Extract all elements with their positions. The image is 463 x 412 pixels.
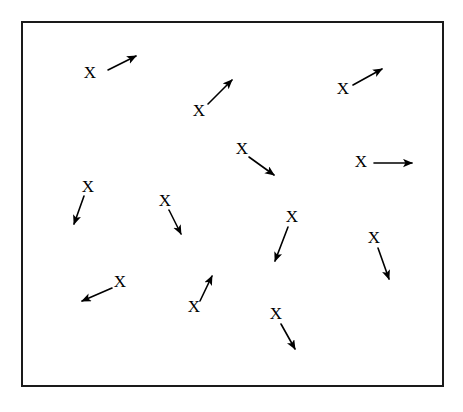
marker-label-x: X <box>236 139 248 158</box>
vector-marker: X <box>337 69 382 98</box>
vector-marker: X <box>275 207 298 261</box>
vector-marker: X <box>368 228 389 279</box>
marker-label-x: X <box>159 191 171 210</box>
vector-arrow <box>200 276 212 301</box>
marker-label-x: X <box>114 272 126 291</box>
markers-layer: XXXXXXXXXXXX <box>74 56 412 349</box>
vector-marker: X <box>82 272 126 301</box>
marker-label-x: X <box>188 297 200 316</box>
marker-label-x: X <box>337 79 349 98</box>
figure-root: XXXXXXXXXXXX <box>0 0 463 412</box>
vector-arrow <box>169 210 181 234</box>
vector-arrow <box>378 248 389 279</box>
vector-marker: X <box>193 80 232 120</box>
marker-label-x: X <box>270 304 282 323</box>
vector-arrow <box>208 80 232 104</box>
vector-arrow <box>249 157 274 175</box>
vector-marker: X <box>188 276 212 316</box>
vector-arrow <box>108 56 136 70</box>
vector-arrow <box>281 324 295 349</box>
vector-marker: X <box>236 139 274 175</box>
vector-arrow <box>353 69 382 85</box>
marker-label-x: X <box>84 63 96 82</box>
marker-label-x: X <box>82 177 94 196</box>
marker-label-x: X <box>286 207 298 226</box>
vector-marker: X <box>355 152 412 171</box>
vector-marker: X <box>159 191 181 234</box>
marker-label-x: X <box>368 228 380 247</box>
vector-arrow <box>74 196 84 224</box>
vector-marker: X <box>270 304 295 349</box>
vector-arrow <box>275 227 288 261</box>
vector-arrow <box>82 288 112 301</box>
vector-marker: X <box>74 177 94 224</box>
vector-marker: X <box>84 56 136 82</box>
vector-field-canvas: XXXXXXXXXXXX <box>0 0 463 412</box>
marker-label-x: X <box>355 152 367 171</box>
marker-label-x: X <box>193 101 205 120</box>
